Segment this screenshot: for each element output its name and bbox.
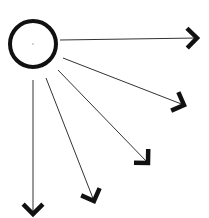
arrow-down-right-mid (58, 70, 148, 163)
arrow-shaft (63, 58, 184, 105)
arrows-group (23, 28, 197, 214)
arrowhead-icon (81, 188, 99, 201)
arrow-down-right-steep (46, 78, 100, 201)
arrow-right (60, 28, 197, 48)
arrow-down-right-shallow (63, 58, 184, 111)
center-dot (32, 43, 33, 44)
arrowhead-icon (171, 92, 184, 110)
arrow-down (23, 80, 43, 214)
radiating-arrows-diagram (0, 0, 209, 218)
arrow-shaft (46, 78, 94, 201)
arrow-shaft (60, 38, 197, 40)
arrow-shaft (58, 70, 148, 163)
